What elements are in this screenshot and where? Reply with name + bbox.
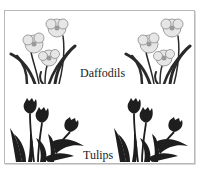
daffodil-icon — [124, 16, 194, 84]
daffodil-icon — [9, 16, 79, 84]
tulip-icon — [8, 98, 88, 162]
daffodils-label: Daffodils — [80, 67, 125, 79]
tulip-icon — [112, 98, 192, 162]
tulips-label: Tulips — [83, 149, 113, 161]
